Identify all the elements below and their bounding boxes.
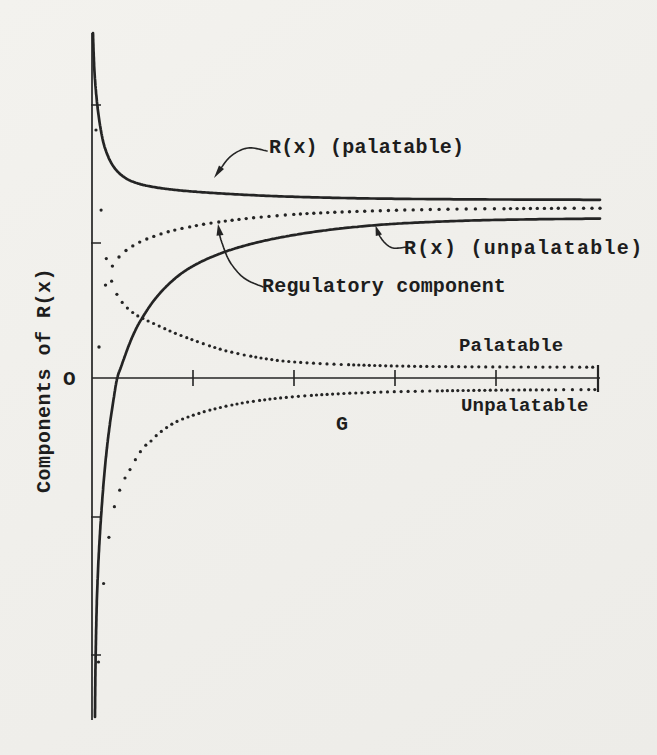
curve-dot (379, 391, 382, 394)
curve-dot (305, 361, 308, 364)
curve-dot (456, 389, 459, 392)
curve-dot (117, 255, 120, 258)
curve-dot (195, 224, 198, 227)
curve-dot (431, 365, 434, 368)
curve-dot (208, 409, 211, 412)
curve-dot (202, 223, 205, 226)
curve-dot (563, 366, 566, 369)
curve-dot (360, 391, 363, 394)
curve-dot (243, 353, 246, 356)
curve-dot (319, 211, 322, 214)
curve-dot (593, 388, 596, 391)
curve-dot (111, 264, 114, 267)
curve-dot (520, 365, 523, 368)
curve-dot (505, 365, 508, 368)
curve-dot (494, 389, 497, 392)
curve-dot (541, 366, 544, 369)
curve-dot (180, 227, 183, 230)
curve-dot (147, 319, 150, 322)
curve-dot (310, 394, 313, 397)
curve-dot (97, 660, 100, 663)
curve-dot (159, 232, 162, 235)
curve-dot (340, 363, 343, 366)
curve-dot (403, 208, 406, 211)
curve-dot (462, 389, 465, 392)
label-origin-o: O (63, 368, 76, 391)
curve-dot (444, 365, 447, 368)
curve-dot (484, 365, 487, 368)
curve-dot (258, 399, 261, 402)
curve-dot (236, 352, 239, 355)
arrow-rx-unpalatable-line (378, 233, 407, 248)
curve-dot (276, 359, 279, 362)
curve-dot (401, 365, 404, 368)
curve-dot (94, 128, 97, 131)
curve-dot (517, 388, 520, 391)
curve-dot (342, 392, 345, 395)
curve-dot (165, 426, 168, 429)
curve-dot (131, 311, 134, 314)
curve-dot (493, 207, 496, 210)
curve-dot (303, 394, 306, 397)
arrow-regulatory-head (217, 224, 224, 236)
curve-dot (235, 402, 238, 405)
curve-dot (126, 307, 129, 310)
curve-dot (115, 293, 118, 296)
curve-dot (548, 366, 551, 369)
curve-dot (371, 209, 374, 212)
curve-dot (131, 244, 134, 247)
curve-dot (354, 391, 357, 394)
curve-dot (104, 283, 107, 286)
curve-dot (420, 208, 423, 211)
curve-dot (275, 214, 278, 217)
curve-dot (590, 207, 593, 210)
curve-dot (181, 417, 184, 420)
curve-dot (315, 393, 318, 396)
curve-dot (188, 225, 191, 228)
curve-dot (217, 220, 220, 223)
curve-dot (202, 342, 205, 345)
curve-dot (436, 389, 439, 392)
curve-dot (598, 207, 601, 210)
curve-dot (163, 327, 166, 330)
curve-dot (407, 365, 410, 368)
curve-dot (124, 249, 127, 252)
curve-dot (254, 356, 257, 359)
curve-dot (340, 210, 343, 213)
curve-dot (474, 207, 477, 210)
curve-dot (213, 407, 216, 410)
curve-dot (363, 210, 366, 213)
curve-dot (478, 389, 481, 392)
curve-dot (97, 345, 100, 348)
curve-dot (333, 211, 336, 214)
curve-dot (230, 351, 233, 354)
curve-dot (213, 346, 216, 349)
curve-dot (591, 366, 594, 369)
curve-dot (400, 390, 403, 393)
curve-dot (100, 209, 103, 212)
curve-dot (110, 280, 113, 283)
curve-dot (158, 325, 161, 328)
curve-dot (299, 212, 302, 215)
curve-dot (160, 430, 163, 433)
label-palatable: Palatable (459, 336, 563, 357)
curve-dot (393, 390, 396, 393)
curve-dot (284, 213, 287, 216)
curve-dot (173, 228, 176, 231)
curve-dot (483, 389, 486, 392)
curve-dot (136, 314, 139, 317)
curve-dot (384, 364, 387, 367)
curve-dot (293, 360, 296, 363)
curve-dot (152, 235, 155, 238)
curve-dot (320, 393, 323, 396)
curve-dot (571, 388, 574, 391)
curve-dot (390, 364, 393, 367)
curve-dot (467, 389, 470, 392)
curve-dot (197, 412, 200, 415)
curve-dot (265, 357, 268, 360)
curve-dot (437, 208, 440, 211)
curve-dot (352, 363, 355, 366)
curve-dot (167, 230, 170, 233)
curve-dot (281, 359, 284, 362)
curve-dot (457, 365, 460, 368)
